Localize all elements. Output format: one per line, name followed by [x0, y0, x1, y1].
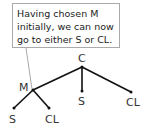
node-m-s-label: S [9, 114, 16, 125]
callout-line: Having chosen M [17, 7, 115, 20]
node-cl-label: CL [126, 97, 140, 108]
node-m-cl-label: CL [45, 114, 59, 125]
edge-c-cl [82, 67, 131, 92]
callout-line: go to either S or CL. [17, 33, 115, 46]
callout-line: initially, we can now [17, 20, 115, 33]
callout-box: Having chosen M initially, we can now go… [12, 3, 120, 48]
edge-c-m [33, 67, 82, 90]
node-root-label: C [78, 53, 86, 64]
node-s-label: S [78, 96, 85, 107]
node-m-label: M [19, 82, 29, 93]
edge-m-cl [33, 90, 49, 108]
